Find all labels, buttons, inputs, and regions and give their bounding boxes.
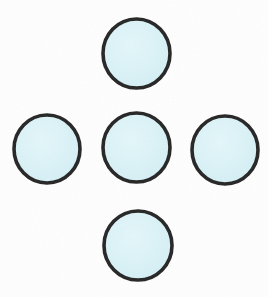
circles-diagram — [0, 0, 268, 297]
circle-bottom — [104, 211, 172, 280]
circle-left — [14, 115, 80, 183]
figure-canvas — [0, 0, 268, 297]
circle-top — [103, 19, 170, 88]
circle-center — [103, 113, 170, 182]
circle-right — [192, 116, 258, 184]
